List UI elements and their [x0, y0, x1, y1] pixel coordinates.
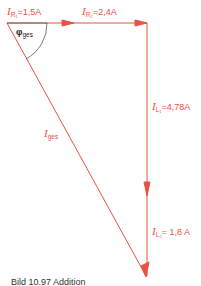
arrowhead-il1	[144, 182, 150, 196]
label-ir2: IR₂=2,4A	[82, 6, 117, 19]
figure-caption: Bild 10.97 Addition	[11, 277, 86, 286]
label-iges: Iges	[44, 128, 58, 141]
vector-iges-line	[7, 23, 146, 276]
label-il2: IL₂= 1,8 A	[152, 226, 190, 239]
arrowhead-ir1	[62, 20, 74, 26]
phasor-diagram	[0, 0, 201, 286]
label-il1: IL₁=4,78A	[152, 101, 190, 114]
label-phi-ges: φges	[16, 28, 33, 39]
arrowhead-iges	[141, 262, 149, 277]
arrowhead-ir2	[135, 20, 147, 26]
label-ir1: IR₁=1,5A	[7, 6, 41, 19]
